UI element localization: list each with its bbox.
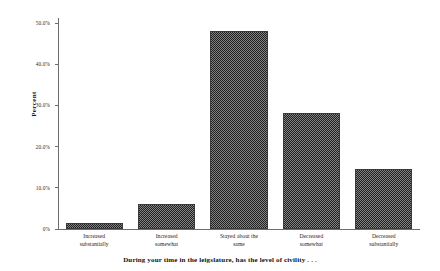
x-axis-category-label-line: Stayed about the bbox=[203, 233, 275, 241]
x-axis-category-label: Decreasedsomewhat bbox=[275, 233, 347, 248]
x-axis-category-label-line: Decreased bbox=[275, 233, 347, 241]
y-axis-tick-label: 40.0% bbox=[36, 59, 50, 69]
bar-slot bbox=[283, 18, 340, 229]
bar-chart-figure: Percent 0%10.0%20.0%30.0%40.0%50.0% Incr… bbox=[0, 0, 440, 271]
bar[interactable] bbox=[283, 113, 340, 229]
bar-slot bbox=[66, 18, 123, 229]
x-axis-category-label-line: same bbox=[203, 241, 275, 249]
x-axis-category-label-line: substantially bbox=[348, 241, 420, 249]
x-axis-category-label: Decreasedsubstantially bbox=[348, 233, 420, 248]
bar-slot bbox=[210, 18, 267, 229]
y-axis-tick: 40.0% bbox=[0, 59, 58, 69]
x-axis-category-label-line: Decreased bbox=[348, 233, 420, 241]
bar-slot bbox=[138, 18, 195, 229]
x-axis-category-label-line: Increased bbox=[58, 233, 130, 241]
x-axis-category-label: Increasedsomewhat bbox=[130, 233, 202, 248]
x-axis-category-label: Stayed about thesame bbox=[203, 233, 275, 248]
x-axis-category-label: Increasedsubstantially bbox=[58, 233, 130, 248]
x-axis-category-labels: IncreasedsubstantiallyIncreasedsomewhatS… bbox=[58, 233, 420, 257]
x-axis-category-label-line: substantially bbox=[58, 241, 130, 249]
y-axis-tick: 0% bbox=[0, 224, 58, 234]
y-axis-tick-label: 50.0% bbox=[36, 18, 50, 28]
y-axis-tick-label: 0% bbox=[43, 224, 50, 234]
y-axis-tick: 20.0% bbox=[0, 142, 58, 152]
y-axis-tick-label: 20.0% bbox=[36, 142, 50, 152]
bar[interactable] bbox=[355, 169, 412, 229]
bar-series bbox=[58, 18, 420, 229]
y-axis-tick: 10.0% bbox=[0, 183, 58, 193]
x-axis-line bbox=[58, 229, 420, 230]
y-axis-tick: 50.0% bbox=[0, 18, 58, 28]
y-axis-tick-label: 10.0% bbox=[36, 183, 50, 193]
x-axis-category-label-line: somewhat bbox=[130, 241, 202, 249]
bar[interactable] bbox=[66, 223, 123, 229]
bar-slot bbox=[355, 18, 412, 229]
y-axis-tick: 30.0% bbox=[0, 100, 58, 110]
x-axis-category-label-line: somewhat bbox=[275, 241, 347, 249]
x-axis-category-label-line: Increased bbox=[130, 233, 202, 241]
x-axis-title: During your time in the leigslature, has… bbox=[0, 256, 440, 264]
bar[interactable] bbox=[138, 204, 195, 229]
y-axis-tick-label: 30.0% bbox=[36, 100, 50, 110]
bar[interactable] bbox=[210, 31, 267, 229]
